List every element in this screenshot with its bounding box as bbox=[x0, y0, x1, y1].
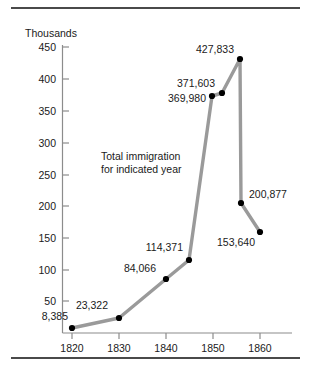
data-point-1845 bbox=[186, 257, 192, 263]
data-label-114371: 114,371 bbox=[131, 241, 183, 253]
data-point-1820 bbox=[69, 325, 75, 331]
data-label-84066: 84,066 bbox=[104, 262, 156, 274]
data-label-369980: 369,980 bbox=[154, 92, 206, 104]
y-tick-label-200: 200 bbox=[30, 200, 56, 212]
y-tick-label-150: 150 bbox=[30, 232, 56, 244]
x-tick-label-1840: 1840 bbox=[149, 342, 183, 354]
data-point-1857 bbox=[238, 200, 244, 206]
y-tick-label-300: 300 bbox=[30, 137, 56, 149]
data-label-23322: 23,322 bbox=[56, 299, 108, 311]
immigration-line-chart-figure: Thousands 450 400 350 300 250 200 150 10… bbox=[0, 0, 311, 375]
chart-annotation-line-1: Total immigration bbox=[101, 150, 182, 163]
y-tick-label-100: 100 bbox=[30, 264, 56, 276]
x-tick-label-1850: 1850 bbox=[196, 342, 230, 354]
data-point-1860 bbox=[257, 229, 263, 235]
x-tick-label-1860: 1860 bbox=[243, 342, 277, 354]
data-label-8385: 8,385 bbox=[16, 310, 68, 322]
data-point-1851 bbox=[219, 90, 225, 96]
y-tick-label-350: 350 bbox=[30, 105, 56, 117]
data-label-427833: 427,833 bbox=[182, 43, 234, 55]
data-label-200877: 200,877 bbox=[249, 188, 301, 200]
y-tick-label-250: 250 bbox=[30, 169, 56, 181]
data-point-1850 bbox=[209, 93, 215, 99]
data-label-153640: 153,640 bbox=[203, 236, 255, 248]
y-tick-label-50: 50 bbox=[30, 295, 56, 307]
x-tick-label-1830: 1830 bbox=[102, 342, 136, 354]
chart-annotation: Total immigration for indicated year bbox=[101, 150, 182, 176]
x-tick-label-1820: 1820 bbox=[55, 342, 89, 354]
y-tick-label-400: 400 bbox=[30, 73, 56, 85]
chart-annotation-line-2: for indicated year bbox=[101, 163, 182, 176]
data-point-1830 bbox=[116, 315, 122, 321]
y-axis-unit-label: Thousands bbox=[25, 27, 77, 39]
y-tick-label-450: 450 bbox=[30, 41, 56, 53]
x-axis-ticks bbox=[72, 333, 260, 339]
data-point-1840 bbox=[163, 276, 169, 282]
data-point-1854 bbox=[237, 56, 243, 62]
data-label-371603: 371,603 bbox=[163, 77, 215, 89]
y-axis-ticks bbox=[63, 47, 70, 301]
